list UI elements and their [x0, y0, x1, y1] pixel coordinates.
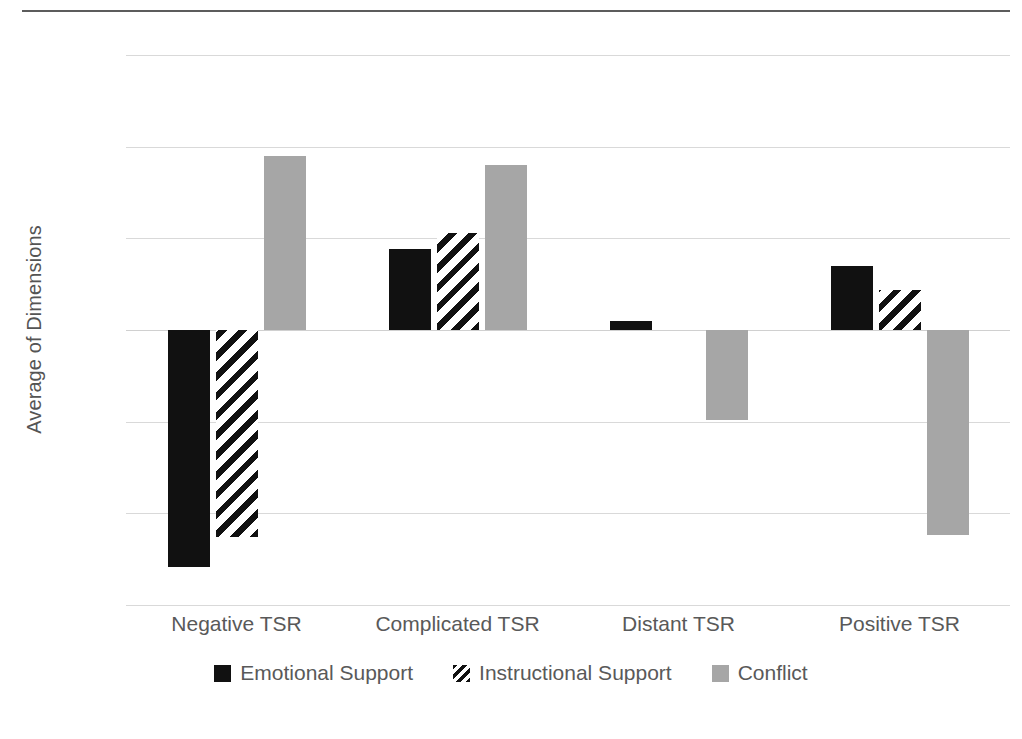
x-axis-category-label: Negative TSR [171, 612, 301, 636]
bar-conflict[interactable] [264, 156, 306, 330]
plot-area: 1.510.50-0.5-1-1.5 [126, 55, 1010, 605]
legend-swatch-icon [214, 665, 231, 682]
bar-group [347, 55, 568, 605]
bar-emotional[interactable] [831, 266, 873, 330]
bar-emotional[interactable] [168, 330, 210, 567]
bar-instructional[interactable] [879, 290, 921, 330]
bar-conflict[interactable] [706, 330, 748, 420]
bar-group [126, 55, 347, 605]
legend-swatch-icon [453, 665, 470, 682]
legend-label: Conflict [738, 661, 808, 685]
x-axis-category-label: Complicated TSR [375, 612, 539, 636]
chart-legend: Emotional SupportInstructional SupportCo… [0, 661, 1022, 685]
top-horizontal-rule [22, 10, 1010, 12]
legend-swatch-icon [712, 665, 729, 682]
y-axis-title: Average of Dimensions [23, 220, 46, 440]
legend-label: Instructional Support [479, 661, 672, 685]
bar-emotional[interactable] [389, 249, 431, 330]
legend-item[interactable]: Conflict [712, 661, 808, 685]
x-axis-category-label: Distant TSR [622, 612, 735, 636]
legend-label: Emotional Support [240, 661, 413, 685]
bar-conflict[interactable] [927, 330, 969, 535]
x-axis-category-label: Positive TSR [839, 612, 960, 636]
bar-instructional[interactable] [437, 233, 479, 330]
legend-item[interactable]: Emotional Support [214, 661, 413, 685]
legend-item[interactable]: Instructional Support [453, 661, 672, 685]
bar-group [789, 55, 1010, 605]
bar-group [568, 55, 789, 605]
bar-series-container [126, 55, 1010, 605]
bar-conflict[interactable] [485, 165, 527, 330]
gridline [126, 605, 1010, 606]
bar-instructional[interactable] [216, 330, 258, 537]
x-axis-category-labels: Negative TSRComplicated TSRDistant TSRPo… [126, 612, 1010, 644]
bar-chart-figure: Average of Dimensions 1.510.50-0.5-1-1.5… [0, 0, 1022, 739]
bar-emotional[interactable] [610, 321, 652, 330]
